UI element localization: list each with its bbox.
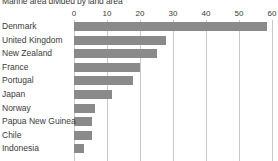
- category-labels: DenmarkUnited KingdomNew ZealandFrancePo…: [0, 20, 72, 161]
- chart-title: Marine area divided by land area: [2, 0, 123, 6]
- bar: [74, 76, 133, 85]
- x-axis-tick-labels: 0102030405060: [0, 9, 278, 20]
- category-label: United Kingdom: [0, 35, 68, 45]
- bar: [74, 49, 157, 58]
- bars: [74, 20, 272, 161]
- bar: [74, 144, 84, 153]
- bar: [74, 36, 166, 45]
- plot-area: [74, 20, 272, 161]
- x-tick-label: 40: [202, 9, 211, 19]
- bar: [74, 22, 267, 31]
- gridline: [272, 20, 273, 161]
- bar: [74, 117, 92, 126]
- category-label: Japan: [0, 89, 68, 99]
- category-label: Denmark: [0, 21, 68, 31]
- category-label: New Zealand: [0, 48, 68, 58]
- bar-chart: Marine area divided by land area 0102030…: [0, 0, 278, 161]
- category-label: Indonesia: [0, 143, 68, 153]
- bar: [74, 63, 140, 72]
- category-label: Portugal: [0, 75, 68, 85]
- x-tick-label: 60: [268, 9, 277, 19]
- bar: [74, 104, 95, 113]
- category-label: Papua New Guinea: [0, 116, 68, 126]
- category-label: Chile: [0, 130, 68, 140]
- x-tick-label: 50: [235, 9, 244, 19]
- bar: [74, 90, 112, 99]
- category-label: France: [0, 62, 68, 72]
- category-label: Norway: [0, 103, 68, 113]
- bar: [74, 131, 92, 140]
- x-tick-label: 20: [136, 9, 145, 19]
- x-tick-label: 30: [169, 9, 178, 19]
- x-tick-label: 0: [72, 9, 76, 19]
- x-tick-label: 10: [103, 9, 112, 19]
